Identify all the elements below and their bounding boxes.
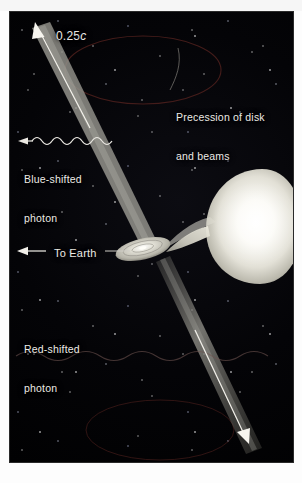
astronomy-figure-panel: 0.25c Precession of disk and beams Blue-… [10, 12, 293, 462]
precession-label-line2: and beams [176, 150, 265, 163]
precession-cone-ellipse-bottom [86, 400, 234, 460]
jet-speed-value: 0.25 [56, 29, 80, 43]
lower-jet-arrow-shaft [195, 330, 243, 432]
figure-stage: 0.25c Precession of disk and beams Blue-… [0, 0, 302, 483]
cropped-text-strip [0, 0, 302, 11]
blue-shifted-label-line1: Blue-shifted [24, 173, 82, 186]
precession-label: Precession of disk and beams [176, 85, 265, 189]
red-shifted-label-line1: Red-shifted [24, 343, 80, 356]
precession-label-line1: Precession of disk [176, 111, 265, 124]
jet-speed-arrow-shaft [40, 32, 90, 128]
precession-leader-line [170, 48, 179, 90]
red-shifted-label-line2: photon [24, 382, 80, 395]
blue-shifted-photon-label: Blue-shifted photon [24, 147, 82, 251]
blue-shifted-label-line2: photon [24, 212, 82, 225]
red-shifted-photon-label: Red-shifted photon [24, 317, 80, 421]
jet-speed-unit: c [80, 29, 86, 43]
jet-speed-label: 0.25c [56, 30, 86, 42]
to-earth-label: To Earth [54, 247, 97, 259]
